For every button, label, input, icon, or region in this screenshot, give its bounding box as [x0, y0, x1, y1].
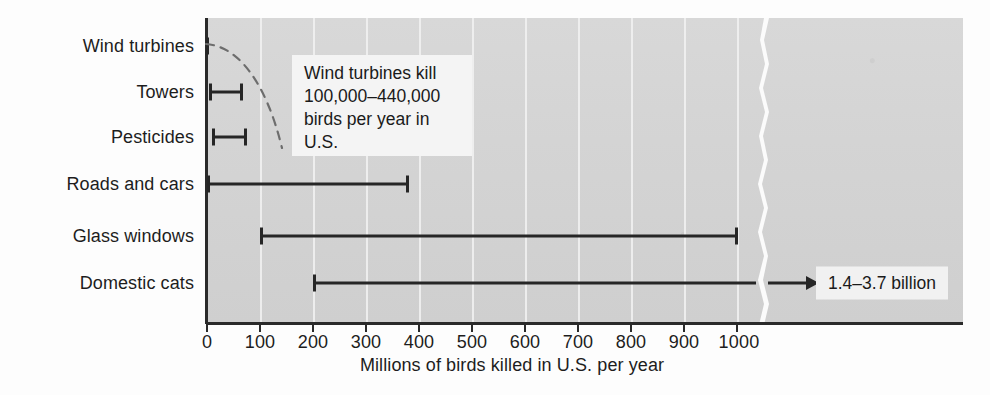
category-label-wind-turbines: Wind turbines: [83, 36, 194, 57]
range-cap-roads-high: [406, 176, 409, 193]
tick-label-700: 700: [563, 332, 594, 353]
tick-label-800: 800: [616, 332, 647, 353]
tick-200: [312, 323, 314, 332]
domestic-cats-billion-callout: 1.4–3.7 billion: [816, 267, 948, 300]
range-bar-pesticides: [212, 136, 246, 139]
range-cap-glass-high: [735, 228, 738, 245]
range-cap-roads-low: [207, 176, 210, 193]
gridline-800: [631, 18, 633, 323]
category-label-glass-windows: Glass windows: [73, 226, 194, 247]
callout-line-1: Wind turbines kill: [304, 62, 460, 85]
tick-900: [683, 323, 685, 332]
range-cap-pesticides-high: [244, 129, 247, 146]
category-label-pesticides: Pesticides: [111, 127, 194, 148]
gridline-900: [684, 18, 686, 323]
callout-line-4: U.S.: [304, 131, 460, 154]
tick-label-0: 0: [202, 332, 212, 353]
category-label-domestic-cats: Domestic cats: [80, 273, 194, 294]
range-bar-domestic-cats-beyond-break: [768, 282, 808, 285]
x-axis-line: [207, 322, 963, 325]
gridline-100: [260, 18, 262, 323]
range-cap-towers-low: [209, 84, 212, 101]
tick-label-600: 600: [510, 332, 541, 353]
range-bar-glass-windows: [260, 235, 737, 238]
gridline-1000: [737, 18, 739, 323]
tick-label-900: 900: [669, 332, 700, 353]
range-bar-towers: [209, 91, 242, 94]
callout-line-2: 100,000–440,000: [304, 85, 460, 108]
x-axis-title: Millions of birds killed in U.S. per yea…: [207, 355, 817, 376]
tick-label-100: 100: [245, 332, 276, 353]
range-bar-domestic-cats: [313, 282, 756, 285]
tick-0: [206, 323, 208, 332]
range-wind-turbines: [206, 38, 209, 55]
range-cap-glass-low: [260, 228, 263, 245]
category-label-roads-and-cars: Roads and cars: [67, 174, 194, 195]
range-cap-domestic-cats-low: [313, 275, 316, 292]
y-axis-line: [205, 18, 208, 324]
bird-mortality-chart: 0 100 200 300 400 500 600 700 800 900 10…: [0, 0, 990, 395]
tick-800: [630, 323, 632, 332]
tick-100: [259, 323, 261, 332]
tick-label-300: 300: [351, 332, 382, 353]
gridline-500: [472, 18, 474, 323]
gridline-600: [525, 18, 527, 323]
gridline-700: [578, 18, 580, 323]
tick-label-1000: 1000: [719, 332, 760, 353]
range-cap-towers-high: [240, 84, 243, 101]
wind-turbines-callout: Wind turbines kill 100,000–440,000 birds…: [292, 55, 472, 156]
range-bar-roads-and-cars: [207, 183, 408, 186]
tick-label-200: 200: [298, 332, 329, 353]
tick-label-500: 500: [457, 332, 488, 353]
tick-1000: [736, 323, 738, 332]
range-cap-pesticides-low: [212, 129, 215, 146]
callout-line-3: birds per year in: [304, 108, 460, 131]
category-label-towers: Towers: [136, 82, 194, 103]
tick-label-400: 400: [404, 332, 435, 353]
tick-500: [471, 323, 473, 332]
tick-600: [524, 323, 526, 332]
tick-700: [577, 323, 579, 332]
tick-300: [365, 323, 367, 332]
tick-400: [418, 323, 420, 332]
